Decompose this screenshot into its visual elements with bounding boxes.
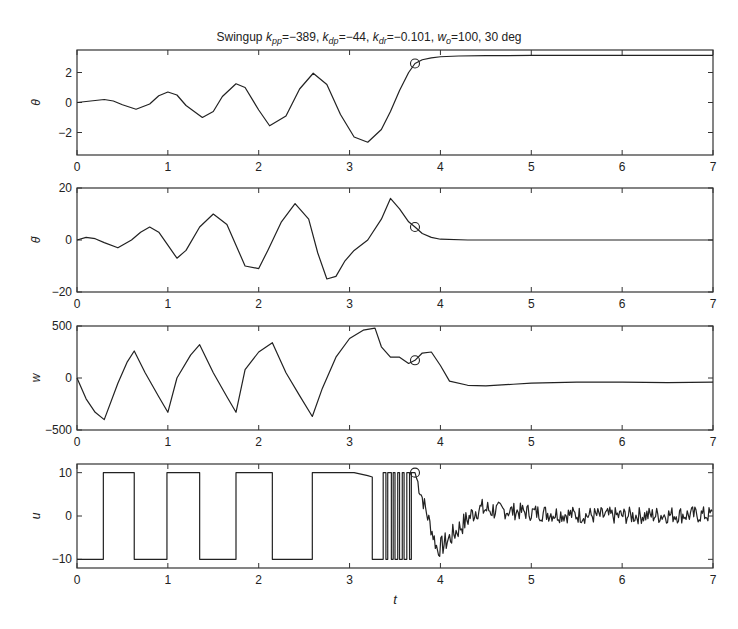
x-tick-label: 5 (528, 297, 535, 311)
y-axis-label: w (29, 372, 43, 382)
x-tick-label: 6 (619, 573, 626, 587)
data-line (77, 473, 712, 560)
y-tick-label: 0 (65, 509, 72, 523)
x-axis-label: t (393, 592, 398, 607)
data-line (77, 55, 713, 142)
y-tick-label: 0 (65, 371, 72, 385)
y-tick-label: 500 (52, 319, 72, 333)
y-axis-label: θ (29, 99, 43, 106)
x-tick-label: 3 (346, 160, 353, 174)
x-tick-label: 2 (255, 160, 262, 174)
x-tick-label: 5 (528, 573, 535, 587)
y-tick-label: 0 (65, 233, 72, 247)
x-tick-label: 6 (619, 160, 626, 174)
x-tick-label: 2 (255, 297, 262, 311)
x-tick-label: 0 (74, 297, 81, 311)
x-tick-label: 0 (74, 435, 81, 449)
subplot-u: 01234567−10010u (29, 464, 717, 587)
x-tick-label: 3 (346, 297, 353, 311)
y-tick-label: 0 (65, 96, 72, 110)
x-tick-label: 4 (437, 573, 444, 587)
y-tick-label: −2 (58, 126, 72, 140)
x-tick-label: 7 (710, 160, 717, 174)
y-tick-label: −20 (52, 285, 73, 299)
x-tick-label: 6 (619, 297, 626, 311)
x-tick-label: 7 (710, 297, 717, 311)
x-tick-label: 0 (74, 160, 81, 174)
y-tick-label: −10 (52, 552, 73, 566)
data-line (77, 328, 713, 420)
x-tick-label: 2 (255, 435, 262, 449)
x-tick-label: 5 (528, 435, 535, 449)
x-tick-label: 1 (165, 573, 172, 587)
x-tick-label: 6 (619, 435, 626, 449)
subplot-theta-dot: 01234567−20020θ̇ (29, 181, 717, 311)
y-tick-label: −500 (45, 423, 72, 437)
y-axis-label: u (29, 512, 43, 519)
figure: 01234567−202θ 01234567−20020θ̇ 01234567−… (0, 0, 738, 629)
y-tick-label: 2 (65, 66, 72, 80)
x-tick-label: 5 (528, 160, 535, 174)
axes-box (77, 326, 713, 430)
x-tick-label: 1 (165, 160, 172, 174)
x-tick-label: 2 (255, 573, 262, 587)
data-line (77, 198, 713, 279)
x-tick-label: 4 (437, 297, 444, 311)
subplot-w: 01234567−5000500w (29, 319, 717, 449)
subplot-theta: 01234567−202θ (29, 50, 717, 174)
x-tick-label: 3 (346, 573, 353, 587)
x-tick-label: 0 (74, 573, 81, 587)
x-tick-label: 4 (437, 435, 444, 449)
x-tick-label: 7 (710, 573, 717, 587)
x-tick-label: 1 (165, 435, 172, 449)
y-tick-label: 20 (59, 181, 73, 195)
x-tick-label: 3 (346, 435, 353, 449)
x-tick-label: 4 (437, 160, 444, 174)
x-tick-label: 1 (165, 297, 172, 311)
x-tick-label: 7 (710, 435, 717, 449)
y-tick-label: 10 (59, 466, 73, 480)
y-axis-label: θ̇ (29, 236, 43, 244)
